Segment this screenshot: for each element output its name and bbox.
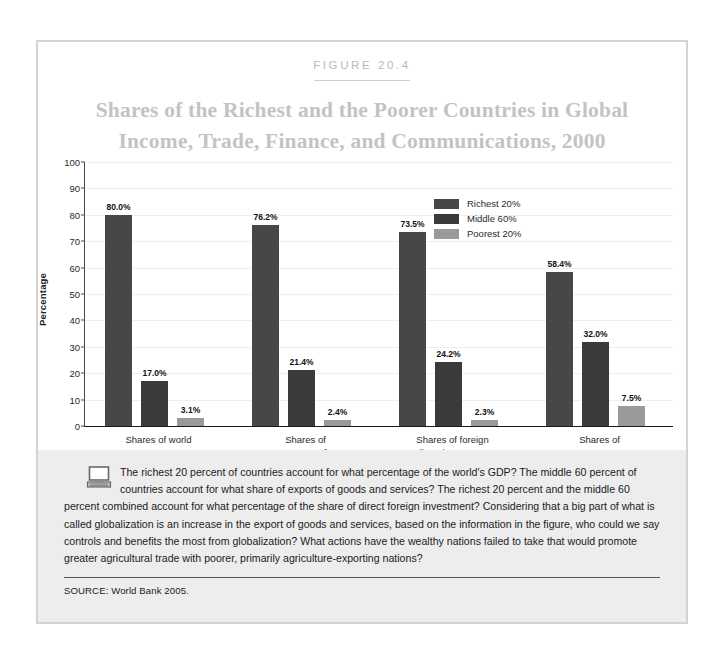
bar-group: 76.2%21.4%2.4%Shares of exports of goods… (232, 162, 379, 426)
y-axis-tick-label: 50 (69, 289, 80, 300)
bar-value-label: 32.0% (583, 329, 607, 339)
y-axis-tick-label: 60 (69, 262, 80, 273)
plot-area: 010203040506070809010080.0%17.0%3.1%Shar… (84, 162, 673, 427)
bar-chart: Percentage 010203040506070809010080.0%17… (38, 154, 686, 454)
bar-value-label: 24.2% (436, 349, 460, 359)
legend-item[interactable]: Richest 20% (434, 198, 521, 209)
bar-value-label: 76.2% (253, 212, 277, 222)
bar-group: 58.4%32.0%7.5%Shares of Internet users (526, 162, 673, 426)
figure-title-line-1: Shares of the Richest and the Poorer Cou… (96, 98, 629, 122)
bar[interactable]: 17.0% (141, 381, 168, 426)
bar-value-label: 21.4% (289, 357, 313, 367)
caption-text: The richest 20 percent of countries acco… (64, 466, 659, 564)
bar-value-label: 2.3% (475, 407, 494, 417)
bar-group: 80.0%17.0%3.1%Shares of world GDP (85, 162, 232, 426)
legend-swatch (434, 229, 459, 239)
legend-item[interactable]: Poorest 20% (434, 228, 521, 239)
bar[interactable]: 32.0% (582, 342, 609, 426)
figure-header: FIGURE 20.4 Shares of the Richest and th… (38, 42, 686, 157)
figure-frame: FIGURE 20.4 Shares of the Richest and th… (36, 40, 688, 624)
bar[interactable]: 21.4% (288, 370, 315, 426)
figure-title: Shares of the Richest and the Poorer Cou… (72, 95, 652, 157)
y-axis-tick-label: 10 (69, 394, 80, 405)
bar[interactable]: 2.4% (324, 420, 351, 426)
chart-legend: Richest 20%Middle 60%Poorest 20% (434, 198, 521, 243)
bar-value-label: 2.4% (328, 407, 347, 417)
bar[interactable]: 76.2% (252, 225, 279, 426)
y-axis-tick-label: 80 (69, 209, 80, 220)
bar-value-label: 17.0% (142, 368, 166, 378)
figure-header-divider (314, 80, 410, 81)
bar-value-label: 58.4% (547, 259, 571, 269)
legend-label: Poorest 20% (467, 228, 521, 239)
y-axis-tick-label: 100 (64, 157, 80, 168)
y-axis-tick-label: 30 (69, 341, 80, 352)
bar-value-label: 80.0% (106, 202, 130, 212)
y-axis-tick-label: 70 (69, 236, 80, 247)
source-text: SOURCE: World Bank 2005. (64, 585, 660, 596)
bar-value-label: 7.5% (622, 393, 641, 403)
bar-value-label: 73.5% (400, 219, 424, 229)
legend-label: Richest 20% (467, 198, 520, 209)
caption-text-wrapper: The richest 20 percent of countries acco… (64, 464, 660, 567)
bar[interactable]: 7.5% (618, 406, 645, 426)
legend-label: Middle 60% (467, 213, 517, 224)
bar[interactable]: 3.1% (177, 418, 204, 426)
legend-swatch (434, 214, 459, 224)
bar-value-label: 3.1% (181, 405, 200, 415)
y-axis-title: Percentage (37, 273, 48, 326)
caption-block: The richest 20 percent of countries acco… (38, 450, 686, 622)
y-axis-tick-label: 20 (69, 368, 80, 379)
y-axis-tick-label: 90 (69, 183, 80, 194)
y-axis-tick-label: 0 (75, 421, 80, 432)
source-divider (64, 577, 660, 578)
legend-item[interactable]: Middle 60% (434, 213, 521, 224)
bar[interactable]: 24.2% (435, 362, 462, 426)
bar[interactable]: 58.4% (546, 272, 573, 426)
figure-number: FIGURE 20.4 (38, 59, 686, 71)
bar[interactable]: 80.0% (105, 215, 132, 426)
bar[interactable]: 73.5% (399, 232, 426, 426)
y-axis-tick-label: 40 (69, 315, 80, 326)
bar[interactable]: 2.3% (471, 420, 498, 426)
figure-title-line-2: Income, Trade, Finance, and Communicatio… (118, 129, 605, 153)
computer-icon (86, 466, 112, 490)
legend-swatch (434, 199, 459, 209)
